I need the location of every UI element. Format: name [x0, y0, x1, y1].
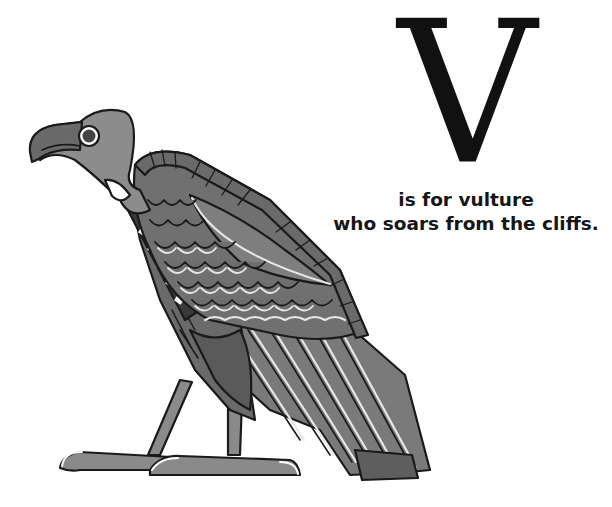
alphabet-book-page: V is for vulture who soars from the clif… — [0, 0, 612, 507]
caption-line-1: is for vulture — [320, 188, 612, 212]
tail — [355, 450, 418, 480]
alphabet-letter: V — [394, 8, 541, 178]
leg-left — [148, 380, 192, 455]
caption: is for vulture who soars from the cliffs… — [320, 188, 612, 236]
pupil — [83, 130, 96, 143]
caption-line-2: who soars from the cliffs. — [320, 212, 612, 236]
